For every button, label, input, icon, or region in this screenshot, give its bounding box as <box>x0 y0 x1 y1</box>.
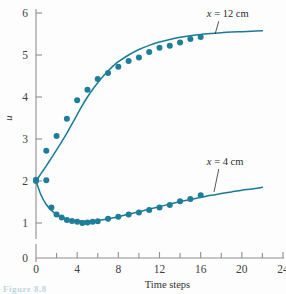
y-tick-label: 1 <box>22 217 28 229</box>
y-axis-label: u <box>2 115 14 121</box>
x-axis-label: Time steps <box>145 279 190 290</box>
series-marker-0 <box>95 76 101 82</box>
series-marker-0 <box>84 87 90 93</box>
series-marker-0 <box>64 116 70 122</box>
x-tick-label: 0 <box>33 263 39 275</box>
figure-container: 012345604812162024Time stepsux = 12 cmx … <box>0 0 286 294</box>
figure-caption: Figure 8.8 <box>3 284 47 294</box>
series-marker-1 <box>115 214 121 220</box>
series-marker-0 <box>167 43 173 49</box>
y-tick-label: 3 <box>22 133 28 145</box>
series-marker-1 <box>187 196 193 202</box>
annotation-leader-1 <box>214 169 219 192</box>
series-marker-0 <box>43 148 49 154</box>
series-marker-0 <box>136 55 142 61</box>
series-marker-1 <box>198 192 204 198</box>
series-marker-1 <box>157 204 163 210</box>
x-tick-label: 16 <box>195 263 207 275</box>
series-marker-0 <box>54 133 60 139</box>
series-marker-1 <box>69 218 75 224</box>
series-marker-1 <box>43 177 49 183</box>
series-marker-0 <box>198 34 204 40</box>
series-marker-1 <box>146 207 152 213</box>
y-tick-label: 5 <box>22 49 28 61</box>
series-marker-1 <box>59 215 65 221</box>
series-curve-1 <box>36 181 262 221</box>
y-tick-label: 6 <box>22 7 28 19</box>
x-tick-label: 8 <box>115 263 121 275</box>
y-tick-label: 2 <box>22 175 28 187</box>
series-marker-1 <box>64 217 70 223</box>
series-marker-1 <box>74 219 80 225</box>
x-tick-label: 12 <box>154 263 166 275</box>
series-marker-1 <box>95 218 101 224</box>
series-marker-1 <box>33 178 39 184</box>
y-tick-label: 4 <box>22 91 28 103</box>
series-marker-1 <box>84 220 90 226</box>
series-marker-0 <box>126 58 132 64</box>
series-marker-0 <box>187 36 193 42</box>
series-marker-1 <box>177 198 183 204</box>
x-tick-label: 20 <box>236 263 248 275</box>
chart-canvas: 012345604812162024Time stepsux = 12 cmx … <box>0 0 286 294</box>
series-marker-0 <box>146 49 152 55</box>
series-marker-0 <box>115 64 121 70</box>
series-marker-1 <box>105 216 111 222</box>
series-marker-1 <box>48 204 54 210</box>
series-marker-1 <box>136 210 142 216</box>
x-tick-label: 24 <box>277 263 286 275</box>
series-marker-1 <box>126 212 132 218</box>
series-annotation-0: x = 12 cm <box>206 8 249 19</box>
series-marker-1 <box>54 212 60 218</box>
series-annotation-1: x = 4 cm <box>206 156 244 167</box>
series-marker-0 <box>105 70 111 76</box>
y-tick-label: 0 <box>22 252 28 264</box>
series-marker-0 <box>157 45 163 51</box>
x-tick-label: 4 <box>74 263 80 275</box>
series-marker-0 <box>177 39 183 45</box>
annotation-leader-0 <box>215 21 219 34</box>
series-marker-1 <box>79 220 85 226</box>
series-marker-1 <box>167 202 173 208</box>
series-marker-0 <box>74 97 80 103</box>
series-marker-1 <box>90 219 96 225</box>
